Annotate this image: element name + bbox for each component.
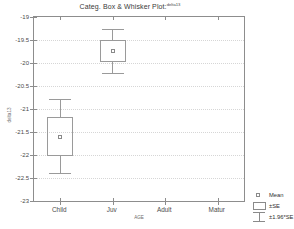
y-axis-tick-inner bbox=[34, 63, 37, 64]
mean-marker-icon bbox=[252, 189, 267, 200]
y-axis-tick-label: -23 bbox=[20, 198, 29, 204]
whisker-cap-lower bbox=[102, 73, 124, 74]
y-axis-tick-inner bbox=[34, 155, 37, 156]
whisker-lower bbox=[60, 156, 61, 173]
y-axis-tick-label: -21 bbox=[20, 106, 29, 112]
y-axis-tick-inner bbox=[34, 201, 37, 202]
x-axis-tick bbox=[60, 201, 61, 205]
gridline bbox=[34, 40, 244, 41]
x-axis-tick bbox=[218, 201, 219, 205]
legend-item-mean: Mean bbox=[252, 189, 294, 200]
chart-window: Categ. Box & Whisker Plot:delta13 delta1… bbox=[0, 0, 294, 229]
gridline bbox=[34, 178, 244, 179]
chart-title: Categ. Box & Whisker Plot:delta13 bbox=[0, 2, 260, 10]
y-axis-tick-inner bbox=[34, 86, 37, 87]
x-axis-tick-top bbox=[218, 17, 219, 20]
whisker-upper bbox=[112, 29, 113, 40]
gridline bbox=[34, 109, 244, 110]
y-axis-tick-inner bbox=[34, 132, 37, 133]
y-axis-tick-inner bbox=[34, 109, 37, 110]
chart-legend: Mean ±SE ±1.96*SE bbox=[252, 189, 294, 222]
x-axis-tick-label: Child bbox=[52, 206, 67, 213]
legend-item-ci: ±1.96*SE bbox=[252, 211, 294, 222]
legend-item-se: ±SE bbox=[252, 200, 294, 211]
gridline bbox=[34, 86, 244, 87]
mean-marker bbox=[58, 135, 62, 139]
y-axis-tick-inner bbox=[34, 40, 37, 41]
x-axis-tick bbox=[113, 201, 114, 205]
whisker-lower bbox=[112, 62, 113, 74]
y-axis-tick-inner bbox=[34, 178, 37, 179]
box-se-icon bbox=[252, 200, 267, 211]
y-axis-tick-inner bbox=[34, 17, 37, 18]
whisker-ci-icon bbox=[252, 211, 267, 222]
y-axis-tick-label: -20 bbox=[20, 60, 29, 66]
whisker-cap-upper bbox=[49, 99, 71, 100]
x-axis-tick-inner bbox=[113, 198, 114, 201]
x-axis-tick-top bbox=[113, 17, 114, 20]
whisker-upper bbox=[60, 99, 61, 117]
y-axis-tick-label: -20.5 bbox=[15, 83, 29, 89]
y-axis-tick-label: -19 bbox=[20, 14, 29, 20]
mean-marker bbox=[111, 49, 115, 53]
plot-inner: -19-19.5-20-20.5-21-21.5-22-22.5-23 bbox=[34, 17, 244, 201]
y-axis-tick-label: -19.5 bbox=[15, 37, 29, 43]
whisker-cap-upper bbox=[102, 29, 124, 30]
y-axis-tick-label: -22 bbox=[20, 152, 29, 158]
x-axis-tick bbox=[165, 201, 166, 205]
x-axis-tick-inner bbox=[60, 198, 61, 201]
chart-title-superscript: delta13 bbox=[167, 2, 181, 7]
x-axis-tick-label: Juv bbox=[107, 206, 117, 213]
x-axis-tick-top bbox=[60, 17, 61, 20]
x-axis-tick-inner bbox=[165, 198, 166, 201]
x-axis-tick-top bbox=[165, 17, 166, 20]
legend-label-ci: ±1.96*SE bbox=[269, 214, 293, 220]
x-axis-tick-label: Matur bbox=[209, 206, 225, 213]
legend-label-se: ±SE bbox=[269, 203, 280, 209]
y-axis-tick-label: -21.5 bbox=[15, 129, 29, 135]
chart-title-text: Categ. Box & Whisker Plot: bbox=[80, 3, 167, 10]
x-axis-tick-label: Adult bbox=[157, 206, 172, 213]
y-axis-tick-label: -22.5 bbox=[15, 175, 29, 181]
x-axis-title: AGE bbox=[134, 215, 144, 220]
plot-area: -19-19.5-20-20.5-21-21.5-22-22.5-23 bbox=[33, 16, 245, 202]
whisker-cap-lower bbox=[49, 173, 71, 174]
gridline bbox=[34, 63, 244, 64]
x-axis-tick-inner bbox=[218, 198, 219, 201]
y-axis-title: delta13 bbox=[7, 107, 12, 122]
legend-label-mean: Mean bbox=[269, 192, 284, 198]
